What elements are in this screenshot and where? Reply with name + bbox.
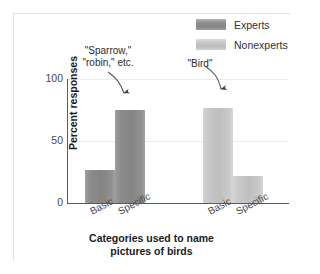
y-axis-title: Percent responses <box>67 48 79 158</box>
y-tick-50: 50 <box>51 134 63 146</box>
legend-swatch-experts <box>196 19 226 30</box>
y-tick-0: 0 <box>57 196 63 208</box>
x-axis-title: Categories used to name pictures of bird… <box>40 232 263 258</box>
legend-label-experts: Experts <box>234 19 270 31</box>
bar-nonexperts-basic[interactable] <box>203 108 233 203</box>
chart-legend: Experts Nonexperts <box>196 17 300 57</box>
annotation-sparrow-label: "Sparrow," "robin," etc. <box>68 45 148 69</box>
legend-item-nonexperts: Nonexperts <box>196 37 300 52</box>
gridline-50 <box>68 141 289 142</box>
y-tick-100: 100 <box>45 72 63 84</box>
bar-experts-specific[interactable] <box>115 110 145 203</box>
x-axis-title-line2: pictures of birds <box>40 245 263 258</box>
plot-area: Percent responses 100 50 0 Basic Specifi… <box>67 79 289 204</box>
annotation-bird-label: "Bird" <box>178 58 222 70</box>
legend-label-nonexperts: Nonexperts <box>234 39 288 51</box>
legend-item-experts: Experts <box>196 17 300 32</box>
x-axis-title-line1: Categories used to name <box>40 232 263 245</box>
legend-swatch-nonexperts <box>196 39 226 50</box>
gridline-100 <box>68 79 289 80</box>
